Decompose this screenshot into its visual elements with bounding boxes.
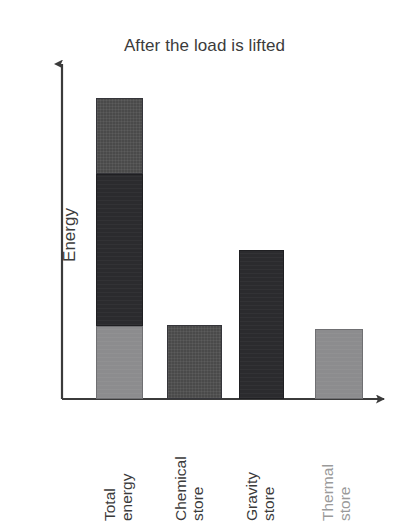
x-tick-label-thermal-store: Thermal store	[319, 464, 353, 521]
bar-chemical-store[interactable]	[167, 325, 222, 399]
bar-segment-chemical	[96, 98, 143, 174]
plot-area	[0, 0, 409, 529]
bar-segment-gravity	[96, 174, 143, 326]
x-tick-label-total-energy: Total energy	[101, 474, 135, 521]
x-tick-label-gravity-store: Gravity store	[243, 472, 277, 521]
bar-segment-thermal	[96, 326, 143, 399]
bar-thermal-store[interactable]	[315, 329, 363, 399]
energy-bar-chart: After the load is lifted Energy	[0, 0, 409, 529]
bar-gravity-store[interactable]	[239, 250, 284, 399]
bar-total-energy[interactable]	[96, 98, 143, 399]
x-tick-label-chemical-store: Chemical store	[172, 456, 206, 521]
